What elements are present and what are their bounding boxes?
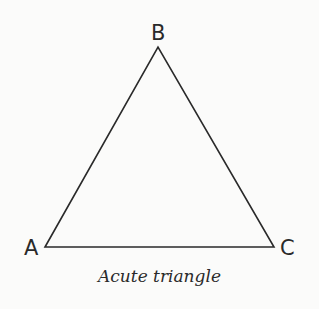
triangle-diagram: A B C bbox=[0, 0, 319, 309]
vertex-label-c: C bbox=[280, 236, 295, 260]
vertex-label-a: A bbox=[24, 236, 39, 260]
vertex-label-b: B bbox=[151, 21, 165, 45]
triangle-shape bbox=[45, 47, 274, 247]
diagram-caption: Acute triangle bbox=[0, 266, 319, 286]
